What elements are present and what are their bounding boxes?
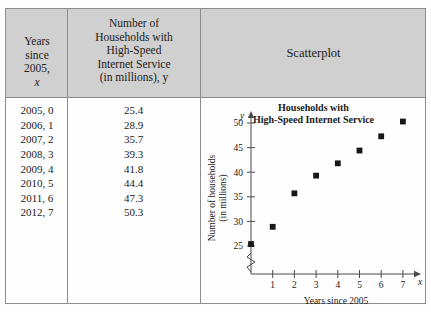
- table-body: 2005, 025.42006, 128.92007, 235.72008, 3…: [6, 98, 425, 303]
- column-header-years-line-3: 2005,: [7, 62, 67, 76]
- cell-years-since: 2011, 6: [7, 192, 67, 204]
- column-header-households: Number of Households with High-Speed Int…: [68, 17, 200, 85]
- svg-text:(in millions): (in millions): [218, 174, 229, 221]
- column-header-households-line-5: (in millions), y: [68, 71, 200, 85]
- data-point: [248, 241, 254, 247]
- cell-years-since: 2005, 0: [7, 104, 67, 116]
- data-point: [357, 148, 363, 154]
- cell-households: 28.9: [67, 119, 200, 131]
- column-header-years-line-2: since: [7, 49, 67, 63]
- x-axis-variable-label: x: [417, 277, 423, 287]
- cell-households: 25.4: [67, 104, 200, 116]
- y-tick-label: 50: [234, 118, 244, 128]
- cell-years-since: 2008, 3: [7, 148, 67, 160]
- column-header-households-line-2: Households with: [68, 31, 200, 45]
- cell-years-since: 2007, 2: [7, 133, 67, 145]
- data-point: [378, 133, 384, 139]
- column-header-households-line-1: Number of: [68, 17, 200, 31]
- column-header-years: Years since 2005, x: [7, 35, 67, 89]
- x-tick-label: 3: [314, 280, 319, 290]
- table-row: 2009, 441.8: [7, 161, 200, 176]
- data-point: [400, 119, 406, 125]
- scatterplot-chart: Households with High-Speed Internet Serv…: [201, 98, 426, 304]
- column-header-households-line-4: Internet Service: [68, 58, 200, 72]
- data-point: [292, 190, 298, 196]
- cell-households: 41.8: [67, 163, 200, 175]
- cell-years-since: 2009, 4: [7, 163, 67, 175]
- cell-households: 35.7: [67, 133, 200, 145]
- x-tick-label: 5: [357, 280, 362, 290]
- table-row: 2010, 544.4: [7, 176, 200, 191]
- x-tick-label: 4: [335, 280, 340, 290]
- column-header-years-variable: x: [7, 76, 67, 90]
- x-tick-label: 1: [270, 280, 275, 290]
- cell-households: 44.4: [67, 177, 200, 189]
- x-tick-label: 6: [379, 280, 384, 290]
- x-tick-label: 2: [292, 280, 297, 290]
- x-tick-label: 7: [401, 280, 406, 290]
- y-tick-label: 30: [234, 217, 244, 227]
- cell-households: 47.3: [67, 192, 200, 204]
- cell-households: 50.3: [67, 206, 200, 218]
- svg-text:Number of households: Number of households: [207, 154, 217, 241]
- data-point: [270, 224, 276, 230]
- y-tick-label: 45: [234, 143, 244, 153]
- cell-years-since: 2012, 7: [7, 206, 67, 218]
- data-point: [313, 173, 319, 179]
- cell-years-since: 2006, 1: [7, 119, 67, 131]
- column-header-scatterplot: Scatterplot: [201, 9, 426, 97]
- data-point: [335, 160, 341, 166]
- y-tick-label: 35: [234, 192, 244, 202]
- table-row: 2011, 647.3: [7, 191, 200, 206]
- scatterplot-svg: xy1234567253035404550Years since 2005Num…: [201, 98, 426, 304]
- data-table: Years since 2005, x Number of Households…: [5, 8, 426, 304]
- figure-root: Years since 2005, x Number of Households…: [0, 0, 431, 312]
- table-row: 2007, 235.7: [7, 132, 200, 147]
- column-header-years-line-1: Years: [7, 35, 67, 49]
- table-row: 2012, 750.3: [7, 205, 200, 220]
- column-header-households-line-3: High-Speed: [68, 44, 200, 58]
- table-rows: 2005, 025.42006, 128.92007, 235.72008, 3…: [7, 103, 200, 220]
- table-row: 2006, 128.9: [7, 118, 200, 133]
- table-row: 2008, 339.3: [7, 147, 200, 162]
- cell-households: 39.3: [67, 148, 200, 160]
- y-axis-arrow: [248, 111, 254, 118]
- y-axis-caption: Number of households(in millions): [207, 154, 229, 241]
- x-axis-caption: Years since 2005: [304, 296, 369, 304]
- cell-years-since: 2010, 5: [7, 177, 67, 189]
- y-tick-label: 25: [234, 241, 244, 251]
- y-tick-label: 40: [234, 168, 244, 178]
- table-row: 2005, 025.4: [7, 103, 200, 118]
